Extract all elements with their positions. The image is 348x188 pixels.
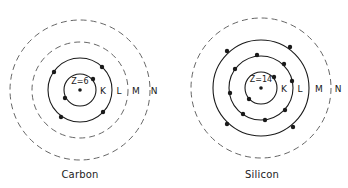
silicon-electron bbox=[272, 75, 276, 79]
silicon-atomic-number: Z=14 bbox=[250, 75, 272, 84]
silicon-electron bbox=[247, 97, 251, 101]
carbon-nucleus bbox=[78, 88, 82, 92]
silicon-electron bbox=[283, 108, 287, 112]
carbon-atomic-number: Z=6 bbox=[71, 77, 88, 86]
silicon-electron bbox=[291, 125, 295, 129]
carbon-electron bbox=[52, 70, 56, 74]
silicon-shell-label-k: K bbox=[281, 84, 288, 94]
carbon-caption: Carbon bbox=[61, 169, 98, 180]
silicon-electron bbox=[228, 91, 232, 95]
carbon-shell-label-n: N bbox=[151, 86, 158, 96]
silicon-electron bbox=[282, 62, 286, 66]
silicon-electron bbox=[288, 45, 292, 49]
silicon-electron bbox=[255, 53, 259, 57]
silicon-electron bbox=[241, 112, 245, 116]
silicon-electron bbox=[263, 118, 267, 122]
carbon-shell-label-m: M bbox=[132, 86, 140, 96]
silicon-electron bbox=[233, 67, 237, 71]
silicon-shell-label-n: N bbox=[335, 84, 342, 94]
silicon-shell-label-l: L bbox=[297, 84, 302, 94]
carbon-shell-label-l: L bbox=[116, 86, 121, 96]
carbon-electron bbox=[63, 96, 67, 100]
silicon-electron bbox=[290, 79, 294, 83]
carbon-shell-label-k: K bbox=[100, 86, 107, 96]
carbon-electron bbox=[101, 110, 105, 114]
silicon-electron bbox=[225, 122, 229, 126]
silicon-nucleus bbox=[259, 86, 263, 90]
carbon-electron bbox=[91, 77, 95, 81]
carbon-electron bbox=[59, 115, 63, 119]
atomic-shell-diagram: Z=6KLMNZ=14KLMN bbox=[0, 0, 348, 188]
silicon-caption: Silicon bbox=[245, 169, 279, 180]
silicon-electron bbox=[225, 49, 229, 53]
carbon-electron bbox=[100, 65, 104, 69]
silicon-shell-label-m: M bbox=[315, 84, 323, 94]
